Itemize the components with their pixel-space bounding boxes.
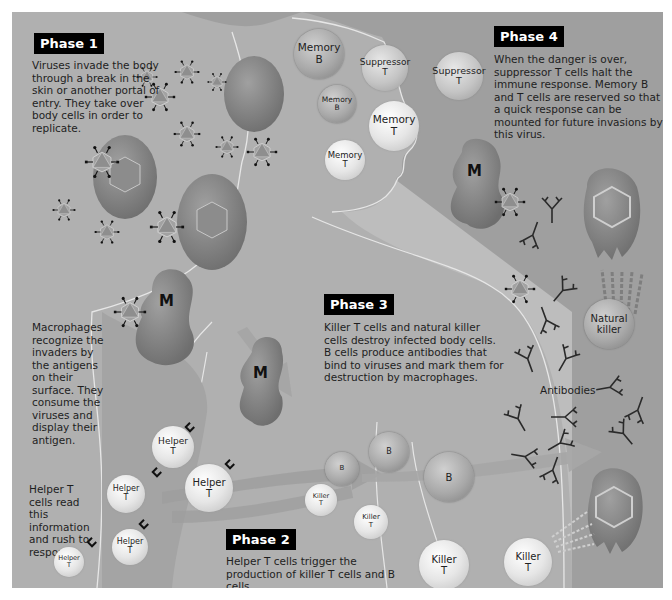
helper-t-cell: HelperT: [112, 529, 148, 565]
phase-3-label: Phase 3: [324, 294, 394, 315]
memory-b-cell: MemoryB: [294, 29, 344, 79]
antibodies-caption: Antibodies: [540, 384, 595, 397]
memory-t-cell: MemoryT: [369, 101, 419, 151]
b-cell: B: [369, 432, 409, 472]
killer-t-cell: KillerT: [305, 484, 337, 516]
phase-2-text: Helper T cells trigger the production of…: [226, 555, 401, 588]
helper-t-cell: HelperT: [185, 464, 233, 512]
phase-1-text: Viruses invade the body through a break …: [32, 59, 162, 134]
phase-2-label: Phase 2: [226, 529, 296, 550]
helper-t-cell: HelperT: [107, 475, 145, 513]
suppressor-t-cell: SuppressorT: [435, 52, 483, 100]
phase-4-label: Phase 4: [494, 26, 564, 47]
natural-killer-cell: Naturalkiller: [584, 299, 634, 349]
phase-3-text: Killer T cells and natural killer cells …: [324, 321, 504, 384]
memory-b-cell: MemoryB: [318, 85, 356, 123]
b-cell: B: [325, 452, 359, 486]
suppressor-t-cell: SuppressorT: [362, 45, 408, 91]
killer-t-cell: KillerT: [354, 505, 388, 539]
phase-4-text: When the danger is over, suppressor T ce…: [494, 53, 663, 141]
helper-t-cell: HelperT: [152, 426, 194, 468]
killer-t-cell: KillerT: [419, 540, 469, 588]
macrophage-label: M: [467, 162, 482, 180]
macrophage-label: M: [253, 364, 268, 382]
phase-1-label: Phase 1: [34, 33, 104, 54]
macrophage-label: M: [159, 292, 174, 310]
memory-t-cell: MemoryT: [325, 140, 365, 180]
helper-t-cell: HelperT: [54, 547, 84, 577]
immune-response-diagram: Phase 1 Viruses invade the body through …: [12, 12, 663, 588]
b-cell: B: [424, 452, 474, 502]
macrophages-caption: Macrophages recognize the invaders by th…: [32, 321, 112, 446]
helper-caption: Helper T cells read this information and…: [29, 483, 97, 558]
killer-t-cell: KillerT: [504, 538, 552, 586]
